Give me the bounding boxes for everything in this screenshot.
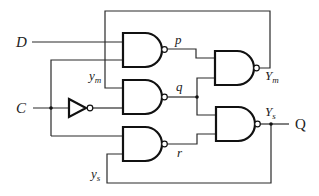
label-q: q bbox=[176, 79, 183, 94]
wire-q-to-ys bbox=[197, 97, 215, 115]
label-c: C bbox=[16, 100, 27, 116]
inversion-bubble bbox=[162, 47, 168, 53]
label-Ym-output: Ym bbox=[265, 68, 279, 85]
junction-c bbox=[49, 106, 53, 110]
nand-gate-ym bbox=[215, 51, 259, 85]
label-ys-input: ys bbox=[89, 166, 101, 183]
wire-p bbox=[167, 49, 215, 58]
wire-r bbox=[167, 134, 215, 144]
junction-q bbox=[195, 95, 199, 99]
label-d: D bbox=[15, 34, 27, 50]
inversion-bubble bbox=[162, 141, 168, 147]
inversion-bubble bbox=[87, 105, 93, 111]
wire-q-to-ym bbox=[197, 78, 215, 97]
inversion-bubble bbox=[162, 94, 168, 100]
label-r: r bbox=[177, 145, 183, 160]
junction-ys bbox=[269, 122, 273, 126]
label-Ys-output: Ys bbox=[265, 104, 276, 121]
logic-circuit-diagram: D C p q r ym ys Ym Ys Q bbox=[0, 0, 319, 196]
inversion-bubble bbox=[254, 65, 260, 71]
wire-c-to-p bbox=[51, 60, 123, 136]
nand-gate-p bbox=[123, 33, 167, 67]
nand-gate-r bbox=[123, 127, 167, 161]
nand-gate-ys bbox=[216, 107, 260, 141]
nand-gate-q bbox=[123, 80, 167, 114]
label-p: p bbox=[174, 32, 182, 47]
inverter-gate bbox=[69, 99, 93, 117]
inversion-bubble bbox=[255, 121, 261, 127]
label-q-output: Q bbox=[295, 116, 306, 132]
label-ym-input: ym bbox=[87, 68, 102, 85]
